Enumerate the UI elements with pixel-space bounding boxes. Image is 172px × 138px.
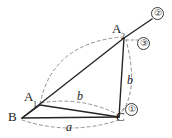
vertex-label-C: C xyxy=(116,110,125,123)
vertex-label-A1: A1 xyxy=(24,90,37,107)
vertex-label-A2-subscript: 2 xyxy=(121,32,125,41)
ray-A2-to-step-2 xyxy=(124,19,152,38)
vertex-label-A1-subscript: 1 xyxy=(33,100,37,109)
step-marker-3: ③ xyxy=(137,37,150,50)
step-marker-1-text: ① xyxy=(128,105,136,114)
edge-A1-C xyxy=(40,105,119,117)
segment-label-b-left: b xyxy=(77,90,83,102)
edge-B-C xyxy=(22,117,119,118)
arc-b-A1-to-C xyxy=(41,101,119,115)
edge-A2-C xyxy=(119,38,124,117)
vertex-label-A1-text: A xyxy=(24,89,33,104)
vertex-label-A2: A2 xyxy=(112,22,125,39)
step-marker-2-text: ② xyxy=(154,9,162,18)
step-marker-1: ① xyxy=(125,103,138,116)
step-marker-3-text: ③ xyxy=(140,39,148,48)
vertex-label-C-text: C xyxy=(116,109,125,124)
vertex-label-B-text: B xyxy=(8,109,17,124)
figure-canvas xyxy=(0,0,172,138)
vertex-label-B: B xyxy=(8,110,17,123)
geometry-figure: B A1 C A2 a b b ① ② ③ xyxy=(0,0,172,138)
segment-label-a: a xyxy=(66,121,72,133)
segment-label-b-right: b xyxy=(127,74,133,86)
vertex-label-A2-text: A xyxy=(112,21,121,36)
step-marker-2: ② xyxy=(151,7,164,20)
